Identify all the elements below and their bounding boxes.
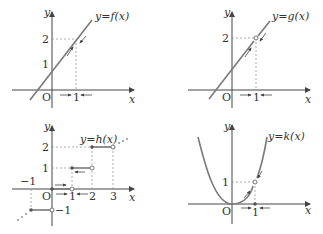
tick-x-1: 1 bbox=[253, 91, 260, 104]
tick-y-1: 1 bbox=[42, 58, 49, 71]
x-axis-label: x bbox=[305, 204, 312, 217]
open-circle bbox=[50, 208, 54, 212]
x-axis-label: x bbox=[305, 93, 312, 106]
graph-k-left bbox=[198, 137, 253, 204]
continuation-dot bbox=[25, 213, 27, 215]
tick-x-1: 1 bbox=[252, 206, 259, 219]
function-label-k: y=k(x) bbox=[267, 130, 305, 143]
graph-g-upper bbox=[258, 21, 270, 36]
tick-x-3: 3 bbox=[110, 190, 117, 203]
tick-y-2: 2 bbox=[42, 33, 49, 46]
origin-label: O bbox=[42, 190, 51, 203]
tick-y-2: 2 bbox=[42, 141, 49, 154]
continuation-dot bbox=[17, 219, 19, 221]
continuation-dot bbox=[122, 140, 124, 142]
tick-x-neg1: −1 bbox=[20, 175, 36, 188]
function-label-h: y=h(x) bbox=[79, 133, 117, 146]
function-label-f: y=f(x) bbox=[94, 10, 129, 23]
y-axis-label: y bbox=[43, 120, 51, 133]
origin-label: O bbox=[222, 205, 231, 218]
origin-label: O bbox=[222, 91, 231, 104]
y-axis-label: y bbox=[43, 6, 51, 19]
open-circle-hole bbox=[254, 36, 258, 40]
x-axis-label: x bbox=[129, 93, 136, 106]
continuation-dot bbox=[126, 138, 128, 140]
tick-x-1: 1 bbox=[69, 190, 76, 203]
y-axis-label: y bbox=[223, 120, 231, 133]
tick-y-1: 1 bbox=[222, 176, 229, 189]
limit-graphs-figure: y=f(x) y x O 1 1 2 y=g(x) y x O 1 2 bbox=[0, 0, 323, 234]
continuation-dot bbox=[118, 142, 120, 144]
open-circle-hole bbox=[253, 180, 257, 184]
panel-h: y=h(x) y x O 1 2 3 −1 1 2 −1 bbox=[12, 120, 136, 226]
tick-y-1: 1 bbox=[42, 162, 49, 175]
tick-y-neg1: −1 bbox=[55, 204, 71, 217]
y-axis-label: y bbox=[223, 6, 231, 19]
open-circle bbox=[90, 166, 94, 170]
tick-x-2: 2 bbox=[89, 190, 96, 203]
origin-label: O bbox=[42, 91, 51, 104]
panel-f: y=f(x) y x O 1 1 2 bbox=[12, 6, 136, 108]
tick-x-1: 1 bbox=[73, 91, 80, 104]
closed-dot bbox=[70, 166, 74, 170]
x-axis-label: x bbox=[129, 191, 136, 204]
panel-k: y=k(x) y x O 1 1 bbox=[188, 120, 312, 224]
graph-k-right bbox=[257, 137, 267, 178]
function-label-g: y=g(x) bbox=[271, 10, 309, 23]
graph-f bbox=[30, 20, 92, 100]
panel-g: y=g(x) y x O 1 2 bbox=[188, 6, 312, 108]
continuation-dot bbox=[21, 216, 23, 218]
arrow-approach-above bbox=[80, 36, 86, 43]
closed-dot bbox=[29, 208, 33, 212]
tick-y-2: 2 bbox=[222, 32, 229, 45]
arrow-approach-above bbox=[260, 33, 266, 41]
